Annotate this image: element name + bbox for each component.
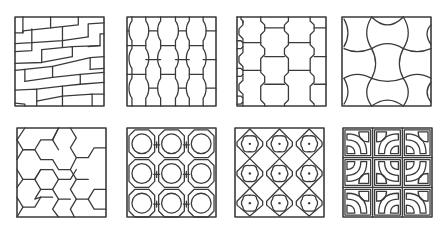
diamond-rosettes-pattern-icon (235, 128, 324, 217)
offset-stepped-pattern-icon (15, 17, 104, 106)
hexagonal-pattern-icon (17, 128, 106, 217)
tile-offset-stepped: Offset stepped rectangular pavers (runni… (15, 17, 104, 106)
tile-octagon-interlock: Octagon-cut interlocking pavers (237, 17, 326, 106)
tile-quarter-arcs: 3x3 grid of quarter-circle arc tiles (343, 128, 432, 217)
tile-diamond-rosettes: Diagonal diamond grid with lobed rosette… (235, 128, 324, 217)
tile-dogbone: Dog-bone / I-shaped interlocking pavers … (127, 17, 216, 106)
curved-bowtie-pattern-icon (342, 17, 431, 106)
quarter-arcs-pattern-icon (343, 128, 432, 217)
tile-curved-bowtie: Curved bow-tie (Unipave) interlocking pa… (342, 17, 431, 106)
tile-circles-crosses: Circle and cross grid pattern (127, 128, 216, 217)
tile-hexagonal: Hexagonal / tri-hex interlocking pavers (17, 128, 106, 217)
dogbone-pattern-icon (127, 17, 216, 106)
octagon-interlock-pattern-icon (237, 17, 326, 106)
circles-crosses-pattern-icon (127, 128, 216, 217)
